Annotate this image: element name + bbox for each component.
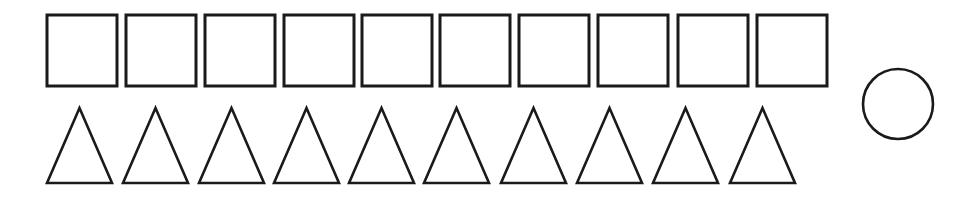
triangle-shape bbox=[577, 108, 642, 183]
shapes-figure bbox=[0, 0, 979, 197]
shapes-canvas bbox=[0, 0, 979, 197]
triangle-shape bbox=[274, 108, 339, 183]
square-shape bbox=[205, 15, 275, 86]
square-shape bbox=[362, 15, 432, 86]
triangle-shape bbox=[501, 108, 566, 183]
square-shape bbox=[440, 15, 510, 86]
triangle-shape bbox=[199, 108, 264, 183]
square-shape bbox=[284, 15, 354, 86]
triangle-shape bbox=[123, 108, 188, 183]
circle-shape bbox=[863, 69, 933, 139]
triangle-shape bbox=[424, 108, 489, 183]
circle-group bbox=[863, 69, 933, 139]
squares-row bbox=[47, 15, 827, 86]
square-shape bbox=[757, 15, 827, 86]
square-shape bbox=[126, 15, 196, 86]
square-shape bbox=[519, 15, 589, 86]
triangle-shape bbox=[349, 108, 414, 183]
triangle-shape bbox=[730, 108, 795, 183]
square-shape bbox=[598, 15, 668, 86]
square-shape bbox=[678, 15, 748, 86]
square-shape bbox=[47, 15, 117, 86]
triangle-shape bbox=[653, 108, 718, 183]
triangle-shape bbox=[47, 108, 112, 183]
triangles-row bbox=[47, 108, 795, 183]
